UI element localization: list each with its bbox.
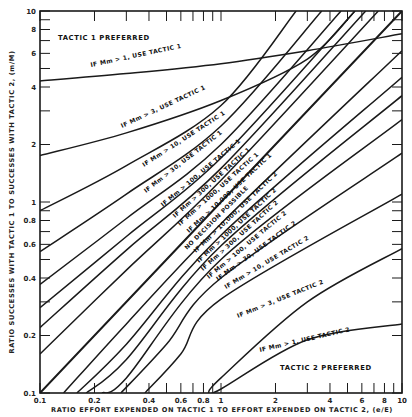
y-tick-label: 2 bbox=[31, 141, 36, 149]
y-tick-label: 0.6 bbox=[24, 241, 37, 249]
x-tick-label: 0.4 bbox=[143, 397, 156, 405]
curve-if-mm-300-use-tactic-1 bbox=[40, 11, 355, 308]
y-tick-label: 0.4 bbox=[24, 275, 37, 283]
y-tick-label: 0.1 bbox=[24, 390, 37, 398]
y-tick-label: 4 bbox=[31, 84, 36, 92]
x-tick-label: 10 bbox=[397, 397, 407, 405]
tactic-1-preferred-label: TACTIC 1 PREFERRED bbox=[58, 34, 150, 42]
tactic-decision-chart: 0.10.20.40.60.812468100.10.20.40.60.8124… bbox=[0, 0, 412, 417]
x-tick-label: 6 bbox=[359, 397, 364, 405]
x-tick-label: 1 bbox=[219, 397, 224, 405]
x-tick-label: 0.6 bbox=[175, 397, 188, 405]
y-tick-label: 0.2 bbox=[24, 332, 37, 340]
x-tick-label: 0.8 bbox=[197, 397, 210, 405]
y-axis-title: RATIO SUCCESSES WITH TACTIC 1 TO SUCCESS… bbox=[8, 50, 16, 353]
x-tick-label: 2 bbox=[273, 397, 278, 405]
curve-if-mm-3-use-tactic-1 bbox=[40, 11, 355, 156]
x-tick-label: 0.2 bbox=[88, 397, 101, 405]
y-tick-label: 0.8 bbox=[24, 217, 37, 225]
y-tick-label: 1 bbox=[31, 199, 36, 207]
x-tick-label: 8 bbox=[382, 397, 387, 405]
y-tick-label: 6 bbox=[31, 50, 36, 58]
tactic-2-preferred-label: TACTIC 2 PREFERRED bbox=[280, 364, 372, 372]
label-t2-mm3: IF Mm > 3, USE TACTIC 2 bbox=[236, 278, 325, 319]
label-t1-mm1: IF Mm > 1, USE TACTIC 1 bbox=[90, 42, 182, 68]
x-tick-label: 4 bbox=[328, 397, 333, 405]
y-tick-label: 8 bbox=[31, 26, 36, 34]
y-tick-label: 10 bbox=[26, 8, 36, 16]
x-tick-label: 0.1 bbox=[34, 397, 47, 405]
x-axis-title: RATIO EFFORT EXPENDED ON TACTIC 1 TO EFF… bbox=[51, 406, 393, 414]
